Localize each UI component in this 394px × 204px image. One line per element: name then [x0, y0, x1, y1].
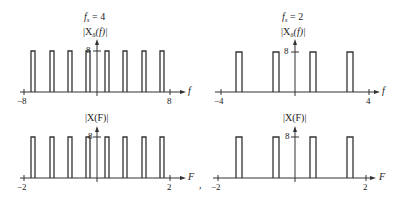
ylabel-bottom-left: |X(F)| [85, 113, 108, 123]
plot-bottom-right [213, 126, 376, 182]
xtick-min-top-left: −8 [17, 97, 27, 106]
ylabel-bottom-right: |X(F)| [283, 113, 306, 123]
plot-top-left [20, 39, 186, 96]
ytick-top-right: 8 [284, 47, 289, 56]
xtick-max-bottom-right: 2 [363, 183, 368, 192]
plot-top-right [215, 39, 380, 96]
ylabel-top-right: |Xδ(f)| [281, 27, 306, 39]
ytick-bottom-right: 8 [285, 132, 290, 141]
ylabel-post: (f)| [96, 26, 108, 37]
plots-svg [0, 0, 394, 204]
xlabel-bottom-right: F [379, 172, 385, 182]
title-fs2: fs = 2 [282, 12, 303, 24]
figure: fs = 4 |Xδ(f)| 8 −8 8 f fs = 2 |Xδ(f)| 8… [0, 0, 394, 204]
plot-bottom-left [20, 126, 186, 182]
separator-comma: , [199, 180, 202, 190]
xtick-min-bottom-left: −2 [17, 183, 27, 192]
xlabel-top-left: f [188, 86, 191, 96]
xtick-min-bottom-right: −2 [211, 183, 221, 192]
ytick-bottom-left: 8 [88, 132, 93, 141]
xtick-min-top-right: −4 [214, 97, 224, 106]
xtick-max-top-left: 8 [167, 97, 172, 106]
title-eq: = 4 [92, 11, 105, 22]
ylabel-top-left: |Xδ(f)| [83, 27, 108, 39]
ylabel-pre: |X [281, 26, 290, 37]
xlabel-bottom-left: F [188, 172, 194, 182]
title-eq: = 2 [290, 11, 303, 22]
ylabel-post: (f)| [294, 26, 306, 37]
title-sub: s [285, 16, 288, 24]
title-sub: s [87, 16, 90, 24]
xtick-max-top-right: 4 [366, 97, 371, 106]
title-fs4: fs = 4 [84, 12, 105, 24]
xtick-max-bottom-left: 2 [167, 183, 172, 192]
ylabel-pre: |X [83, 26, 92, 37]
ytick-top-left: 8 [86, 46, 91, 55]
xlabel-top-right: f [382, 86, 385, 96]
